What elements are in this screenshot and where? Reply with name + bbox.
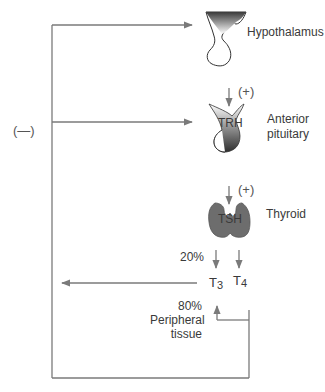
tsh-label: TSH bbox=[218, 212, 242, 226]
negative-feedback-sign: (—) bbox=[13, 124, 35, 138]
anterior-pituitary-label-line1: Anterior bbox=[267, 112, 309, 126]
hypothalamus-icon bbox=[206, 12, 246, 66]
thyroid-t3-percentage: 20% bbox=[180, 250, 204, 264]
anterior-pituitary-label-line2: pituitary bbox=[267, 127, 309, 141]
hypothalamus-stimulation-sign: (+) bbox=[238, 85, 254, 99]
peripheral-tissue-block: 80% Peripheral tissue bbox=[150, 299, 202, 341]
trh-label: TRH bbox=[218, 116, 243, 130]
t4-label: T4 bbox=[233, 274, 247, 288]
peripheral-conversion-arrow bbox=[217, 306, 249, 320]
peripheral-t3-percentage: 80% bbox=[150, 299, 202, 313]
peripheral-tissue-label-line1: Peripheral bbox=[150, 313, 202, 327]
thyroid-label: Thyroid bbox=[266, 207, 306, 221]
t3-label: T3 bbox=[209, 276, 223, 290]
pituitary-stimulation-sign: (+) bbox=[238, 183, 254, 197]
hypothalamus-label: Hypothalamus bbox=[247, 25, 324, 39]
peripheral-tissue-label-line2: tissue bbox=[150, 327, 202, 341]
